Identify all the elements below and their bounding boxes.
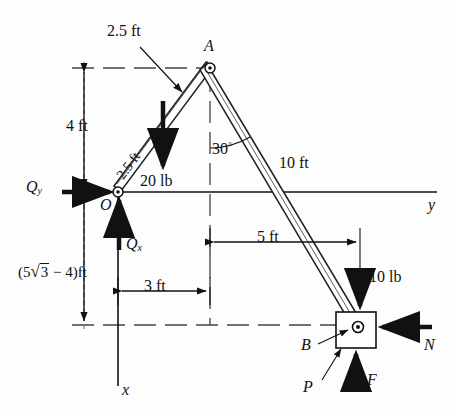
label-axis-x: x	[122, 381, 129, 399]
pin-joint-O	[113, 187, 123, 197]
dim-radicand: 3	[40, 263, 50, 280]
Qx-symbol: Q	[126, 235, 138, 252]
pin-joint-A	[205, 63, 215, 73]
label-force-N: N	[424, 336, 435, 354]
leader-P	[322, 349, 341, 380]
label-force-P: P	[303, 378, 313, 396]
pin-joint-B	[353, 322, 364, 333]
construction-lines	[72, 62, 342, 332]
dim-suffix: − 4)ft	[49, 264, 87, 280]
label-force-F: F	[367, 371, 377, 389]
label-10lb: 10 lb	[369, 268, 401, 286]
label-point-A: A	[204, 37, 214, 55]
label-Qx: Qx	[126, 235, 142, 253]
degree-symbol: °	[228, 141, 232, 152]
link-lower-AB	[200, 64, 362, 331]
diagram-canvas: 2.5 ft A 4 ft 2.5 ft 20 lb 30° 10 ft Qy …	[0, 0, 456, 411]
diagram-vector-layer	[0, 0, 456, 411]
label-point-O: O	[100, 196, 112, 214]
leader-2p5ft	[140, 47, 182, 92]
label-axis-y: y	[428, 196, 435, 214]
label-point-B: B	[301, 336, 311, 354]
label-3ft: 3 ft	[144, 277, 166, 295]
Qy-symbol: Q	[26, 178, 38, 195]
label-2p5ft-leader: 2.5 ft	[107, 22, 141, 40]
label-lower-vertical-dimension: (5√3 − 4)ft	[18, 262, 87, 282]
label-Qy: Qy	[26, 178, 42, 196]
label-5ft: 5 ft	[257, 228, 279, 246]
label-4ft: 4 ft	[66, 117, 88, 135]
label-10ft: 10 ft	[279, 154, 309, 172]
Qy-subscript: y	[38, 185, 42, 196]
angle-value: 30	[212, 140, 228, 157]
dim-prefix: (5	[18, 264, 31, 280]
Qx-subscript: x	[138, 242, 142, 253]
label-20lb: 20 lb	[140, 172, 172, 190]
label-angle-30: 30°	[212, 140, 232, 158]
